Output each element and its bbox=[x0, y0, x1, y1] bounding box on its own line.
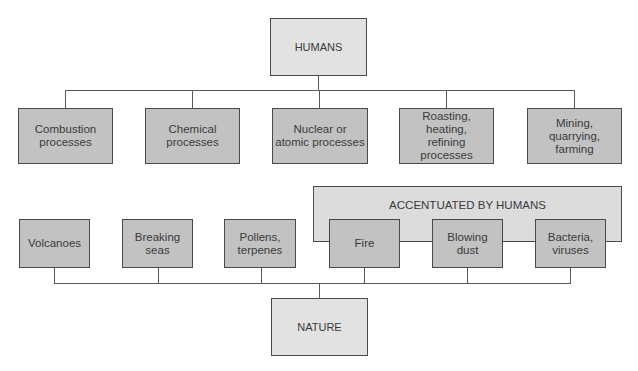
connector-roasting bbox=[446, 90, 447, 108]
connector-fire bbox=[364, 268, 365, 283]
pollens-terpenes-node: Pollens, terpenes bbox=[224, 219, 296, 268]
volcanoes-node: Volcanoes bbox=[19, 219, 90, 268]
roasting-processes-node: Roasting, heating, refining processes bbox=[399, 108, 494, 164]
fire-node: Fire bbox=[329, 219, 400, 268]
bacteria-viruses-node: Bacteria, viruses bbox=[535, 219, 606, 268]
nuclear-processes-node: Nuclear or atomic processes bbox=[272, 108, 368, 164]
connector-bottom-bus bbox=[54, 283, 571, 284]
blowing-dust-node: Blowing dust bbox=[432, 219, 503, 268]
chemical-processes-node: Chemical processes bbox=[145, 108, 240, 164]
connector-pollens bbox=[261, 268, 262, 283]
connector-mining bbox=[574, 90, 575, 108]
connector-bacteria bbox=[570, 268, 571, 283]
connector-volcanoes bbox=[54, 268, 55, 283]
humans-node: HUMANS bbox=[270, 18, 367, 76]
combustion-processes-node: Combustion processes bbox=[18, 108, 113, 164]
mining-quarrying-farming-node: Mining, quarrying, farming bbox=[527, 108, 622, 164]
connector-nature-up bbox=[319, 283, 320, 298]
connector-humans-down bbox=[318, 76, 319, 90]
nature-node: NATURE bbox=[271, 298, 368, 356]
connector-breaking-seas bbox=[158, 268, 159, 283]
connector-blowing-dust bbox=[467, 268, 468, 283]
connector-chemical bbox=[192, 90, 193, 108]
connector-nuclear bbox=[319, 90, 320, 108]
connector-combustion bbox=[65, 90, 66, 108]
breaking-seas-node: Breaking seas bbox=[122, 219, 193, 268]
